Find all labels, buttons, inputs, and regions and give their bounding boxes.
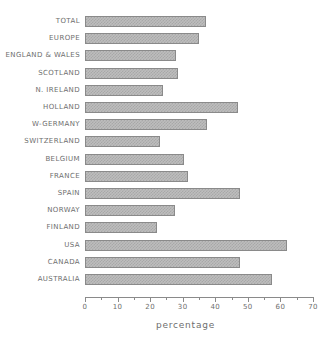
bar-row: N. IRELAND [0,84,329,97]
x-tick-label: 40 [210,303,220,311]
bar [85,274,272,285]
bar [85,102,238,113]
bar [85,188,240,199]
bar [85,136,160,147]
x-tick-label: 70 [308,303,318,311]
category-label: FINLAND [46,221,80,234]
bar-row: BELGIUM [0,153,329,166]
category-label: USA [64,239,80,252]
x-tick-minor [264,298,265,300]
bar [85,205,175,216]
bar [85,16,206,27]
category-label: BELGIUM [45,153,80,166]
bar-row: CANADA [0,256,329,269]
bar [85,171,188,182]
bar-row: ENGLAND & WALES [0,49,329,62]
bar-row: SWITZERLAND [0,135,329,148]
category-label: SCOTLAND [38,67,80,80]
category-label: NORWAY [47,204,80,217]
bar-row: TOTAL [0,15,329,28]
bar [85,68,178,79]
category-label: ENGLAND & WALES [5,49,80,62]
bar [85,85,163,96]
x-tick-minor [134,298,135,300]
x-tick-label: 30 [178,303,188,311]
bar-chart: TOTALEUROPEENGLAND & WALESSCOTLANDN. IRE… [0,0,329,349]
category-label: CANADA [48,256,80,269]
x-tick-minor [166,298,167,300]
bar-row: W-GERMANY [0,118,329,131]
x-tick-label: 50 [243,303,253,311]
x-tick-major [118,298,119,302]
x-axis-title: percentage [0,320,329,330]
category-label: FRANCE [50,170,80,183]
x-tick-major [150,298,151,302]
bar [85,119,207,130]
bar [85,50,176,61]
category-label: N. IRELAND [35,84,80,97]
bar-row: FINLAND [0,221,329,234]
category-label: SWITZERLAND [24,135,80,148]
x-tick-minor [232,298,233,300]
bar-row: SCOTLAND [0,67,329,80]
bar-row: FRANCE [0,170,329,183]
category-label: SPAIN [58,187,80,200]
bar-row: AUSTRALIA [0,273,329,286]
bar [85,257,240,268]
bar-row: NORWAY [0,204,329,217]
x-tick-label: 0 [83,303,88,311]
x-tick-label: 60 [276,303,286,311]
x-tick-minor [297,298,298,300]
x-tick-major [85,298,86,302]
bar-row: USA [0,239,329,252]
bar [85,33,199,44]
category-label: AUSTRALIA [38,273,80,286]
x-tick-major [313,298,314,302]
category-label: TOTAL [56,15,80,28]
x-axis-title-text: percentage [156,320,215,330]
category-label: EUROPE [49,32,80,45]
x-tick-minor [199,298,200,300]
bar [85,154,184,165]
x-tick-minor [101,298,102,300]
x-tick-major [280,298,281,302]
bar [85,222,157,233]
bar-row: EUROPE [0,32,329,45]
x-tick-major [248,298,249,302]
category-label: W-GERMANY [32,118,80,131]
x-tick-label: 20 [145,303,155,311]
category-label: HOLLAND [43,101,80,114]
x-tick-major [183,298,184,302]
bar [85,240,287,251]
bar-row: HOLLAND [0,101,329,114]
bar-row: SPAIN [0,187,329,200]
x-tick-major [215,298,216,302]
x-tick-label: 10 [113,303,123,311]
